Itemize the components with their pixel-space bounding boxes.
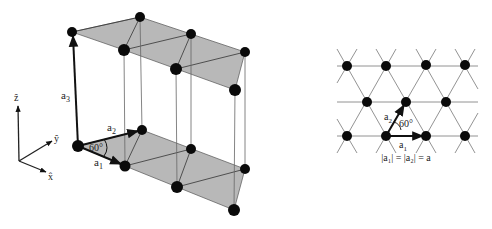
atom — [228, 204, 240, 216]
a1-label-2d: a1 — [399, 139, 407, 153]
coordinate-axes — [18, 106, 52, 172]
y-axis-arrow — [19, 141, 52, 161]
atom — [229, 84, 241, 96]
bottom-plane — [78, 130, 245, 210]
left-panel-3d-lattice: ẑ ŷ x̂ — [14, 12, 250, 216]
atom — [381, 61, 391, 71]
a3-vector-arrow — [73, 36, 78, 146]
atom — [118, 44, 130, 56]
caption: |a₁| = |a₂| = a — [381, 152, 431, 163]
atom — [421, 60, 431, 70]
angle-label: 60° — [89, 142, 103, 153]
a1-label: a1 — [94, 156, 103, 171]
right-panel-2d-lattice: a2 a1 60° |a₁| = |a₂| = a — [337, 49, 478, 163]
atom — [441, 97, 451, 107]
figure-canvas: ẑ ŷ x̂ — [0, 0, 492, 229]
atom — [120, 161, 131, 172]
atom — [186, 144, 196, 154]
atom — [460, 60, 470, 70]
a2-label: a2 — [107, 121, 116, 136]
atom — [401, 97, 411, 107]
atom — [362, 97, 372, 107]
y-axis-label: ŷ — [54, 133, 59, 144]
atom — [240, 164, 250, 174]
a2-label-2d: a2 — [384, 111, 392, 125]
x-axis-arrow — [19, 161, 46, 172]
atom — [342, 131, 352, 141]
z-axis-arrow — [18, 106, 19, 161]
atom — [381, 131, 391, 141]
a3-label: a3 — [61, 89, 70, 104]
atom — [170, 63, 182, 75]
atom — [186, 29, 196, 39]
atom — [137, 125, 147, 135]
angle-label-2d: 60° — [399, 118, 413, 129]
atom — [342, 61, 352, 71]
atom — [460, 131, 470, 141]
atom — [135, 12, 145, 22]
atom — [72, 140, 84, 152]
atom — [67, 27, 77, 37]
z-axis-label: ẑ — [14, 92, 19, 103]
atom — [240, 47, 250, 57]
x-axis-label: x̂ — [48, 171, 53, 182]
atom — [171, 181, 183, 193]
top-plane — [72, 17, 245, 90]
atom — [421, 131, 431, 141]
